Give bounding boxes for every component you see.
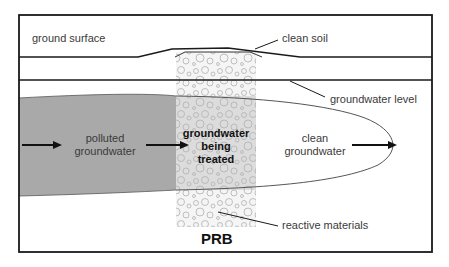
polluted-line2: groundwater — [70, 145, 140, 158]
polluted-line1: polluted — [70, 132, 140, 145]
label-polluted-groundwater: polluted groundwater — [70, 132, 140, 158]
label-prb: PRB — [201, 230, 233, 247]
label-ground-surface: ground surface — [32, 32, 105, 45]
treated-line3: treated — [178, 153, 254, 166]
label-reactive-materials: reactive materials — [282, 219, 368, 232]
clean-line1: clean — [280, 132, 350, 145]
label-groundwater-level: groundwater level — [330, 93, 417, 106]
treated-line2: being — [178, 140, 254, 153]
label-clean-soil: clean soil — [282, 32, 328, 45]
treated-line1: groundwater — [178, 127, 254, 140]
label-clean-groundwater: clean groundwater — [280, 132, 350, 158]
clean-line2: groundwater — [280, 145, 350, 158]
label-groundwater-being-treated: groundwater being treated — [178, 127, 254, 166]
